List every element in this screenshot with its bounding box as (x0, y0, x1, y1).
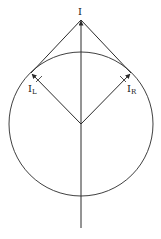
label-il: IL (28, 84, 37, 96)
label-il-sub: L (32, 88, 37, 96)
vector-diagram (0, 0, 161, 239)
right-tangent-line (81, 20, 131, 73)
label-ir: IR (127, 84, 136, 96)
left-radius-vector (32, 74, 81, 124)
label-top-i: I (78, 7, 82, 17)
left-tangent-line (31, 20, 81, 73)
label-ir-sub: R (131, 88, 136, 96)
right-radius-vector (81, 74, 130, 124)
label-top-text: I (78, 6, 82, 17)
